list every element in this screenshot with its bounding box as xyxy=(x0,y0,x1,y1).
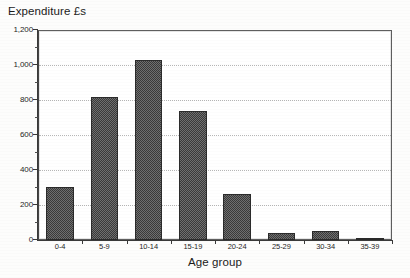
y-axis-tick xyxy=(33,64,38,65)
bar-chart-figure: Expenditure £s 02004006008001,0001,200 0… xyxy=(0,0,410,278)
y-axis-tick-label: 400 xyxy=(20,165,33,174)
y-axis-tick xyxy=(33,99,38,100)
bar xyxy=(135,60,162,240)
y-axis-minor-tick xyxy=(35,82,38,83)
x-axis-tick-label: 35-39 xyxy=(348,242,392,251)
x-axis-tick-label: 20-24 xyxy=(215,242,259,251)
y-axis-tick-label: 1,000 xyxy=(13,60,33,69)
x-axis-title: Age group xyxy=(38,256,392,268)
y-axis-tick-label: 600 xyxy=(20,130,33,139)
x-axis-tick-label: 0-4 xyxy=(38,242,82,251)
y-axis-minor-tick xyxy=(35,47,38,48)
x-axis-tick xyxy=(392,240,393,244)
y-axis-tick-label: 800 xyxy=(20,95,33,104)
x-axis-tick-label: 25-29 xyxy=(259,242,303,251)
x-axis-labels-group: 0-45-910-1415-1920-2425-2930-3435-39 xyxy=(38,242,392,256)
x-axis-tick-label: 15-19 xyxy=(171,242,215,251)
y-axis-tick-label: 0 xyxy=(29,235,33,244)
y-axis-minor-tick xyxy=(35,152,38,153)
y-axis-minor-tick xyxy=(35,187,38,188)
y-axis-tick xyxy=(33,169,38,170)
y-axis-minor-tick xyxy=(35,222,38,223)
y-axis-tick xyxy=(33,134,38,135)
bar xyxy=(268,233,295,240)
bar xyxy=(179,111,206,240)
bar xyxy=(312,231,339,240)
y-axis-tick xyxy=(33,29,38,30)
bar xyxy=(91,97,118,241)
y-axis-labels-group: 02004006008001,0001,200 xyxy=(0,0,33,278)
bar xyxy=(46,187,73,240)
y-axis-tick xyxy=(33,204,38,205)
bars-group xyxy=(38,30,392,240)
x-axis-tick-label: 5-9 xyxy=(82,242,126,251)
y-axis-minor-tick xyxy=(35,117,38,118)
y-axis-line xyxy=(37,30,38,241)
x-axis-tick-label: 30-34 xyxy=(304,242,348,251)
x-axis-tick-label: 10-14 xyxy=(127,242,171,251)
y-axis-tick-label: 1,200 xyxy=(13,25,33,34)
bar xyxy=(223,194,250,240)
y-axis-tick-label: 200 xyxy=(20,200,33,209)
